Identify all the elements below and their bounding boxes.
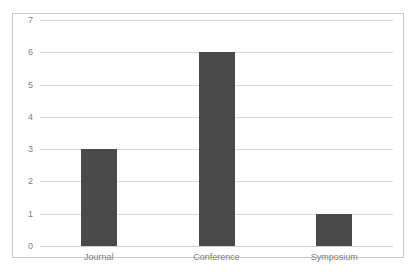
y-tick-label: 2 [28,177,33,186]
plot-area: 01234567 JournalConferenceSymposium [40,20,393,246]
y-tick-label: 6 [28,48,33,57]
x-tick-label: Conference [193,253,240,262]
y-tick-label: 3 [28,145,33,154]
gridline [40,20,393,21]
y-tick-label: 5 [28,80,33,89]
x-tick-label: Journal [84,253,114,262]
bar [316,214,352,246]
y-tick-label: 0 [28,242,33,251]
bar [199,52,235,246]
y-tick-label: 7 [28,16,33,25]
bar [81,149,117,246]
gridline [40,246,393,247]
bar-chart-figure: 01234567 JournalConferenceSymposium [12,13,404,258]
y-tick-label: 1 [28,209,33,218]
y-tick-label: 4 [28,112,33,121]
x-tick-label: Symposium [311,253,358,262]
